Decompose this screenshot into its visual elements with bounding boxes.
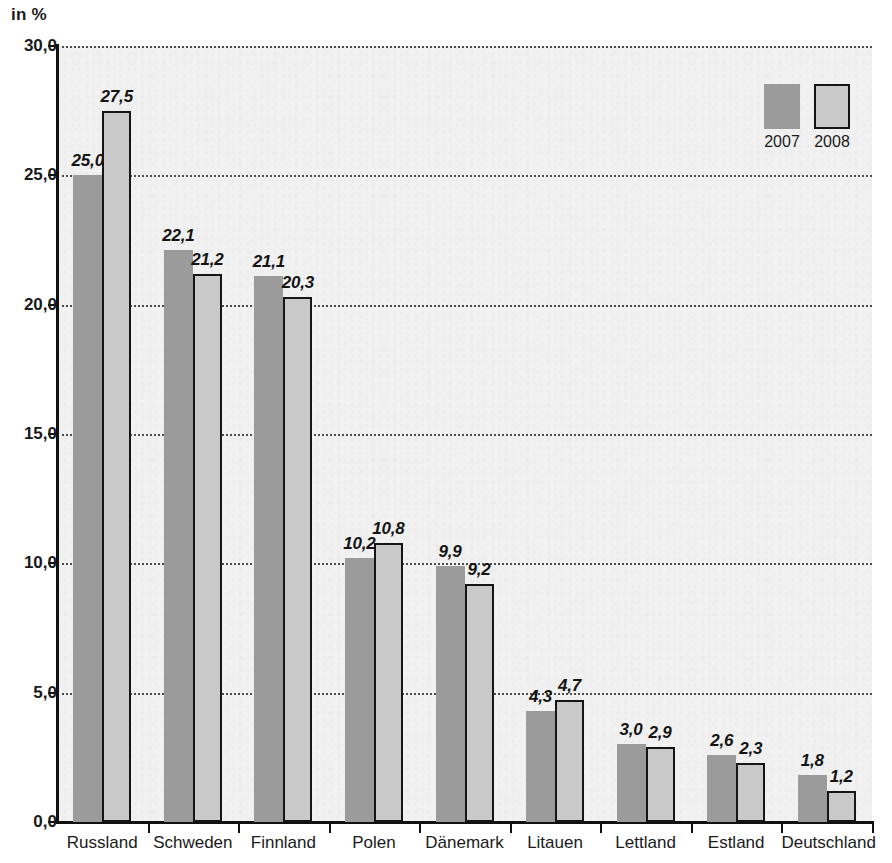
bar-schweden-2008[interactable]	[193, 274, 222, 822]
y-tick-label: 25,0	[5, 165, 57, 185]
gridline	[57, 175, 872, 177]
bar-lettland-2007[interactable]	[617, 744, 646, 822]
y-tick-label: 20,0	[5, 295, 57, 315]
bar-deutschland-2008[interactable]	[827, 791, 856, 822]
bar-value-label: 2,9	[632, 723, 688, 743]
category-label-litauen: Litauen	[510, 833, 601, 853]
x-tick-mark	[419, 822, 421, 833]
legend-label-2007: 2007	[760, 133, 804, 151]
x-tick-mark	[600, 822, 602, 833]
y-tick-label: 5,0	[5, 683, 57, 703]
bar-value-label: 21,1	[241, 252, 297, 272]
category-label-estland: Estland	[691, 833, 782, 853]
bar-value-label: 4,7	[542, 676, 598, 696]
bar-value-label: 20,3	[270, 273, 326, 293]
bar-value-label: 22,1	[150, 226, 206, 246]
category-label-russland: Russland	[57, 833, 148, 853]
bar-chart: in % 0,05,010,015,020,025,030,0 25,027,5…	[0, 0, 892, 863]
bar-dänemark-2008[interactable]	[465, 584, 494, 822]
bar-russland-2007[interactable]	[73, 175, 102, 822]
y-axis-unit-label: in %	[11, 5, 47, 25]
legend: 2007 2008	[762, 84, 858, 150]
gridline	[57, 46, 872, 48]
bar-russland-2008[interactable]	[102, 111, 131, 822]
category-label-schweden: Schweden	[148, 833, 239, 853]
category-label-polen: Polen	[329, 833, 420, 853]
bar-schweden-2007[interactable]	[164, 250, 193, 822]
bar-polen-2007[interactable]	[345, 558, 374, 822]
legend-swatch-2007	[764, 84, 800, 129]
category-label-finnland: Finnland	[238, 833, 329, 853]
x-tick-mark	[510, 822, 512, 833]
x-tick-mark	[781, 822, 783, 833]
category-label-deutschland: Deutschland	[781, 833, 872, 853]
bar-value-label: 21,2	[179, 250, 235, 270]
bar-finnland-2007[interactable]	[254, 276, 283, 822]
x-tick-mark	[148, 822, 150, 833]
bar-value-label: 1,2	[813, 767, 869, 787]
bar-lettland-2008[interactable]	[646, 747, 675, 822]
y-tick-label: 0,0	[5, 812, 57, 832]
bar-value-label: 9,2	[451, 560, 507, 580]
bar-polen-2008[interactable]	[374, 543, 403, 822]
bar-estland-2007[interactable]	[707, 755, 736, 822]
bar-value-label: 10,8	[360, 519, 416, 539]
x-tick-mark	[329, 822, 331, 833]
x-tick-mark	[238, 822, 240, 833]
bar-dänemark-2007[interactable]	[436, 566, 465, 822]
bar-value-label: 27,5	[89, 87, 145, 107]
y-tick-label: 15,0	[5, 424, 57, 444]
bar-value-label: 9,9	[422, 542, 478, 562]
bar-litauen-2007[interactable]	[526, 711, 555, 822]
y-axis-line	[56, 44, 59, 824]
x-tick-mark	[691, 822, 693, 833]
bar-estland-2008[interactable]	[736, 763, 765, 822]
bar-value-label: 2,3	[723, 739, 779, 759]
bar-finnland-2008[interactable]	[283, 297, 312, 822]
category-label-lettland: Lettland	[600, 833, 691, 853]
legend-label-2008: 2008	[810, 133, 854, 151]
category-label-dänemark: Dänemark	[419, 833, 510, 853]
y-tick-label: 30,0	[5, 36, 57, 56]
legend-swatch-2008	[814, 84, 850, 129]
y-tick-label: 10,0	[5, 553, 57, 573]
x-tick-mark	[872, 822, 874, 833]
bar-litauen-2008[interactable]	[555, 700, 584, 822]
